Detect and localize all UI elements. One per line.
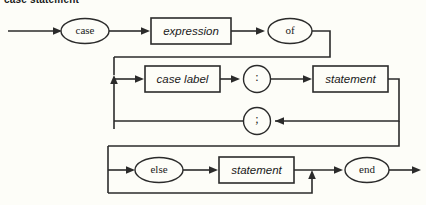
arrow-into-of: [256, 27, 265, 35]
arrow-into-statement2: [209, 166, 218, 174]
node-of-label: of: [285, 24, 295, 36]
railroad-diagram: case expression of case label :: [0, 0, 426, 205]
node-statement1-label: statement: [325, 73, 376, 85]
arrow-into-case-label: [135, 75, 144, 83]
arrow-into-statement1: [303, 75, 312, 83]
arrow-into-end: [334, 166, 343, 174]
arrow-into-else: [126, 166, 135, 174]
node-colon-label: :: [255, 70, 258, 84]
node-statement2-label: statement: [231, 164, 282, 176]
node-else-label: else: [150, 163, 167, 175]
node-end-label: end: [359, 163, 375, 175]
arrow-merge-up-row4: [308, 170, 316, 179]
arrow-exit: [412, 166, 421, 174]
node-semicolon-label: ;: [255, 112, 258, 126]
arrow-into-colon: [231, 75, 240, 83]
syntax-diagram-canvas: case statement case expression of: [0, 0, 426, 205]
node-case-label-label: case label: [157, 73, 209, 85]
node-case-label: case: [76, 24, 95, 36]
arrow-into-semicolon: [275, 117, 284, 125]
arrow-into-expression: [141, 27, 150, 35]
node-expression-label: expression: [163, 25, 219, 37]
